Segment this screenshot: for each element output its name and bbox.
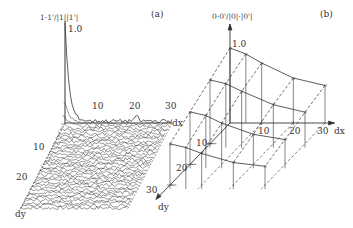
ridge-line [36, 176, 143, 179]
panel-b-z-tick: 1.0 [232, 40, 246, 49]
panel-a-x-tick-30: 30 [165, 102, 176, 111]
panel-a-label: (a) [151, 10, 163, 19]
svg-text:×: × [200, 150, 204, 156]
panel-b-x-tick-20: 20 [289, 127, 300, 136]
ridge-line [47, 155, 154, 158]
ridge-line [45, 158, 152, 161]
ridge-line [29, 188, 136, 192]
ridge-line [35, 178, 142, 181]
panel-a-plot [20, 21, 172, 210]
ridge-line [65, 23, 172, 123]
panel-b-z-axis-title: 0·0'/|0|·|0'| [212, 13, 253, 21]
panel-b-x-tick-10: 10 [258, 127, 269, 136]
panel-a-z-tick: 1.0 [68, 25, 82, 34]
panel-a-x-axis-label: dx [172, 119, 183, 128]
panel-b-y-tick-10: 10 [196, 139, 207, 148]
panel-b-x-axis-label: dx [334, 127, 345, 136]
svg-text:×: × [263, 163, 267, 169]
svg-text:×: × [232, 159, 236, 165]
ridge-line [23, 201, 130, 204]
svg-text:×: × [240, 88, 244, 94]
svg-text:×: × [323, 82, 327, 88]
svg-text:×: × [224, 80, 228, 86]
svg-text:×: × [188, 109, 192, 115]
svg-text:×: × [272, 101, 276, 107]
svg-text:×: × [168, 141, 172, 147]
ridge-line [40, 168, 147, 171]
ridge-line [60, 128, 167, 133]
figure-canvas: ×××××××××××××××××××× [0, 0, 353, 228]
ridge-line [25, 196, 132, 199]
svg-text:×: × [292, 75, 296, 81]
svg-text:×: × [252, 131, 256, 137]
surface-curve-dy [170, 48, 230, 144]
svg-text:×: × [283, 136, 287, 142]
panel-a-y-tick-10: 10 [33, 143, 44, 152]
svg-text:×: × [208, 77, 212, 83]
svg-text:×: × [260, 60, 264, 66]
panel-b-label: (b) [320, 10, 333, 19]
panel-b-x-tick-30: 30 [317, 127, 328, 136]
ridge-line [43, 163, 150, 166]
panel-b-y-tick-20: 20 [176, 164, 187, 173]
panel-a-y-tick-20: 20 [16, 173, 27, 182]
ridge-line [54, 140, 161, 143]
svg-text:×: × [204, 112, 208, 118]
panel-b-y-axis-label: dy [158, 203, 169, 212]
svg-text:×: × [303, 109, 307, 115]
x-axis-arrow [329, 121, 335, 125]
ridge-line [39, 171, 146, 174]
z-axis-arrow [228, 24, 232, 30]
ridge-line [24, 199, 131, 202]
figure: ×××××××××××××××××××× (a) 1·1'/|1||1'| 1.… [0, 0, 353, 228]
ridge-line [49, 150, 156, 153]
ridge-line [31, 186, 138, 190]
surface-curve-dy [186, 54, 246, 148]
panel-a-x-tick-10: 10 [92, 102, 103, 111]
svg-text:×: × [220, 120, 224, 126]
panel-a-y-axis-label: dy [15, 210, 26, 219]
y-axis [156, 123, 230, 199]
svg-text:×: × [244, 51, 248, 57]
panel-b-y-tick-30: 30 [146, 186, 157, 195]
ridge-line [37, 173, 144, 177]
panel-a-z-axis-title: 1·1'/|1||1'| [40, 14, 78, 22]
panel-a-x-tick-20: 20 [129, 102, 140, 111]
panel-b-plot: ×××××××××××××××××××× [156, 24, 335, 199]
ridge-line [64, 102, 171, 125]
svg-text:×: × [184, 144, 188, 150]
